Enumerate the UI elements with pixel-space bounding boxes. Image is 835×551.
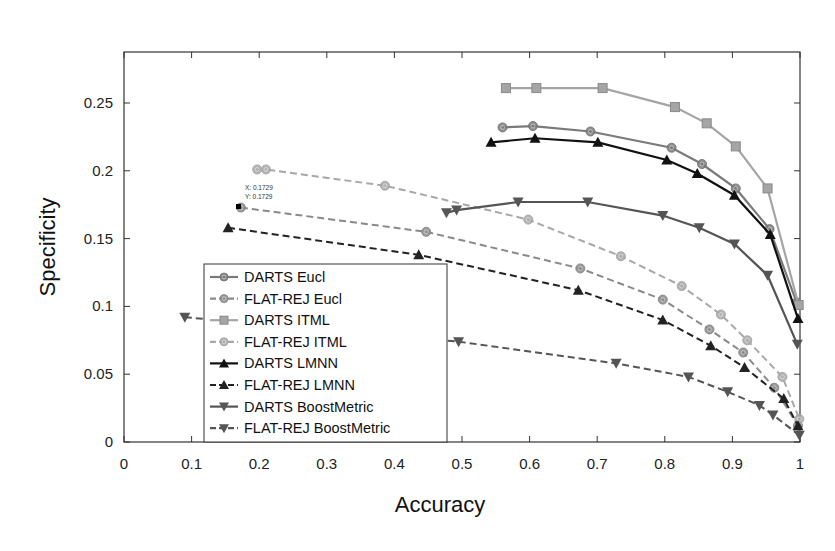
y-tick-label: 0.15 [84, 230, 113, 247]
x-tick-label: 1 [796, 455, 804, 472]
line-chart: 00.10.20.30.40.50.60.70.80.91 00.050.10.… [0, 0, 835, 551]
datatip-x: X: 0.1729 [245, 184, 273, 191]
y-tick-label: 0.05 [84, 365, 113, 382]
legend-label: DARTS ITML [244, 312, 330, 328]
x-tick-label: 0.7 [587, 455, 608, 472]
x-tick-label: 0.8 [654, 455, 675, 472]
y-tick-labels: 00.050.10.150.20.25 [84, 94, 113, 450]
legend-label: FLAT-REJ ITML [244, 334, 347, 350]
legend-label: FLAT-REJ Eucl [244, 291, 342, 307]
x-tick-label: 0.5 [452, 455, 473, 472]
x-tick-label: 0.6 [519, 455, 540, 472]
x-tick-label: 0.3 [316, 455, 337, 472]
y-tick-label: 0.1 [92, 297, 113, 314]
y-tick-label: 0.2 [92, 162, 113, 179]
datatip-marker [236, 204, 241, 209]
legend-label: FLAT-REJ BoostMetric [244, 420, 390, 436]
legend-label: DARTS BoostMetric [244, 399, 373, 415]
x-tick-label: 0.9 [722, 455, 743, 472]
legend-label: DARTS Eucl [244, 269, 325, 285]
y-tick-label: 0.25 [84, 94, 113, 111]
y-tick-label: 0 [105, 433, 113, 450]
x-tick-labels: 00.10.20.30.40.50.60.70.80.91 [120, 455, 804, 472]
x-axis-title: Accuracy [395, 492, 485, 517]
x-tick-label: 0.2 [249, 455, 270, 472]
x-tick-label: 0 [120, 455, 128, 472]
y-axis-title: Specificity [35, 197, 60, 296]
x-tick-label: 0.4 [384, 455, 405, 472]
legend-label: FLAT-REJ LMNN [244, 377, 355, 393]
legend-label: DARTS LMNN [244, 355, 338, 371]
x-tick-label: 0.1 [181, 455, 202, 472]
datatip-y: Y: 0.1729 [245, 193, 273, 200]
legend: DARTS EuclFLAT-REJ EuclDARTS ITMLFLAT-RE… [204, 264, 447, 442]
